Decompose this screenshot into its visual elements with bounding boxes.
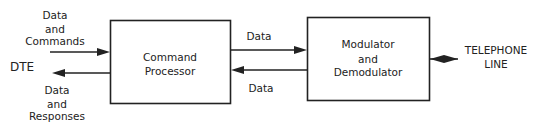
arrowhead-icon [97, 48, 110, 56]
data-and-responses-label: Data and Responses [29, 84, 85, 122]
svg-text:and: and [45, 23, 65, 35]
data-and-commands-label: Data and Commands [25, 9, 84, 47]
telephone-line-label: TELEPHONE LINE [464, 44, 528, 70]
svg-text:LINE: LINE [484, 58, 507, 70]
arrow-modem-telephone-line [430, 55, 458, 63]
svg-text:and: and [358, 53, 378, 65]
modulator-demodulator-box: Modulator and Demodulator [308, 18, 430, 101]
svg-text:Data: Data [44, 84, 69, 96]
arrow-modem-to-command-processor [231, 66, 307, 74]
svg-text:Data: Data [42, 9, 67, 21]
arrowhead-icon [430, 55, 444, 63]
arrowhead-icon [444, 55, 458, 63]
svg-text:Command: Command [143, 51, 197, 63]
arrowhead-icon [231, 66, 244, 74]
svg-text:Responses: Responses [29, 110, 85, 122]
arrow-dte-to-command-processor [50, 48, 110, 56]
data-label-to-command-processor: Data [248, 82, 273, 94]
arrowhead-icon [52, 69, 65, 77]
dte-label: DTE [10, 60, 34, 74]
svg-text:and: and [47, 98, 67, 110]
svg-text:Processor: Processor [145, 65, 196, 77]
data-label-to-modem: Data [246, 30, 271, 42]
command-processor-box: Command Processor [111, 21, 231, 104]
svg-text:Commands: Commands [25, 35, 84, 47]
arrow-command-processor-to-modem [230, 46, 307, 54]
arrow-command-processor-to-dte [52, 69, 110, 77]
svg-text:Modulator: Modulator [341, 38, 395, 50]
svg-text:Demodulator: Demodulator [334, 66, 403, 78]
modem-block-diagram: DTE Data and Commands Data and Responses… [0, 0, 534, 126]
svg-text:TELEPHONE: TELEPHONE [464, 44, 528, 56]
arrowhead-icon [294, 46, 307, 54]
